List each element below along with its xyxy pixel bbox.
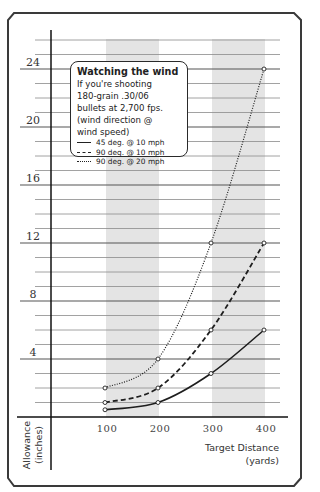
y-axis-label: Allowance (inches) bbox=[21, 421, 44, 469]
data-point-marker bbox=[103, 401, 107, 405]
data-point-marker bbox=[156, 357, 160, 361]
legend-item-dashed: 90 deg. @ 10 mph bbox=[77, 148, 181, 158]
y-tick-label: 4 bbox=[30, 346, 37, 359]
legend-item-label: 90 deg. @ 20 mph bbox=[96, 157, 164, 167]
data-point-marker bbox=[262, 67, 266, 71]
data-point-marker bbox=[209, 241, 213, 245]
legend-item-solid: 45 deg. @ 10 mph bbox=[77, 138, 181, 148]
data-point-marker bbox=[103, 408, 107, 412]
x-tick-label: 300 bbox=[203, 423, 224, 434]
legend-description: If you're shooting 180-grain .30/06 bull… bbox=[77, 78, 181, 138]
legend-item-label: 90 deg. @ 10 mph bbox=[96, 148, 164, 158]
y-tick-label: 16 bbox=[26, 172, 40, 185]
y-tick-label: 8 bbox=[30, 288, 37, 301]
legend-item-label: 45 deg. @ 10 mph bbox=[96, 138, 164, 148]
y-tick-label: 12 bbox=[26, 230, 40, 243]
data-point-marker bbox=[156, 401, 160, 405]
y-axis-label-line1: Allowance bbox=[21, 421, 32, 469]
data-point-marker bbox=[262, 328, 266, 332]
x-axis-label-line2: (yards) bbox=[245, 455, 279, 466]
y-tick-label: 24 bbox=[26, 56, 40, 69]
data-point-marker bbox=[103, 386, 107, 390]
legend-box: Watching the wind If you're shooting 180… bbox=[70, 61, 188, 157]
x-tick-label: 400 bbox=[256, 423, 277, 434]
dotted-line-swatch-icon bbox=[77, 161, 91, 162]
y-axis-label-line2: (inches) bbox=[33, 426, 44, 464]
legend-item-dotted: 90 deg. @ 20 mph bbox=[77, 157, 181, 167]
x-axis-label-line1: Target Distance bbox=[204, 442, 279, 453]
data-point-marker bbox=[156, 386, 160, 390]
x-tick-label: 100 bbox=[97, 423, 118, 434]
data-point-marker bbox=[262, 241, 266, 245]
x-tick-label: 200 bbox=[150, 423, 171, 434]
legend-title: Watching the wind bbox=[77, 66, 181, 78]
dashed-line-swatch-icon bbox=[77, 152, 91, 153]
y-tick-label: 20 bbox=[26, 114, 40, 127]
data-point-marker bbox=[209, 372, 213, 376]
shaded-band bbox=[212, 39, 265, 417]
data-point-marker bbox=[209, 328, 213, 332]
solid-line-swatch-icon bbox=[77, 142, 91, 143]
